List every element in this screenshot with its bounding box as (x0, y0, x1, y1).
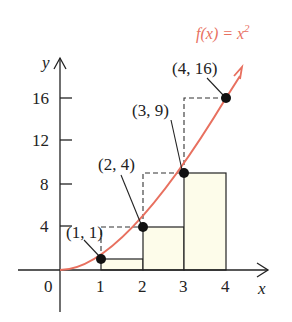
y-tick-label-12: 12 (32, 131, 49, 150)
curve-arrow-icon (234, 67, 242, 79)
point-label-2: (2, 4) (98, 155, 135, 174)
point-label-4: (4, 16) (172, 59, 217, 78)
lower-rectangles (101, 173, 226, 270)
lower-rect-1 (101, 259, 143, 270)
x-axis-label: x (257, 279, 266, 298)
x-tick-label-4: 4 (221, 277, 230, 296)
x-tick-label-3: 3 (179, 277, 188, 296)
point-2-4 (138, 222, 148, 232)
point-label-1: (1, 1) (66, 223, 103, 242)
y-tick-label-16: 16 (32, 89, 49, 108)
point-3-9 (179, 168, 189, 178)
lower-rect-3 (184, 173, 226, 270)
riemann-sum-chart: (1, 1) (2, 4) (3, 9) (4, 16) f(x) = x2 1… (0, 0, 292, 322)
origin-label: 0 (44, 277, 53, 296)
lower-rect-2 (143, 227, 184, 270)
x-tick-label-1: 1 (96, 277, 105, 296)
point-4-16 (221, 93, 231, 103)
point-1-1 (96, 254, 106, 264)
y-tick-label-8: 8 (40, 175, 49, 194)
upper-rect-1 (101, 227, 143, 259)
y-axis-label: y (40, 53, 50, 72)
upper-rect-2 (143, 173, 184, 227)
function-label: f(x) = x2 (196, 22, 250, 43)
x-tick-label-2: 2 (138, 277, 147, 296)
y-tick-label-4: 4 (40, 217, 49, 236)
point-label-3: (3, 9) (132, 101, 169, 120)
